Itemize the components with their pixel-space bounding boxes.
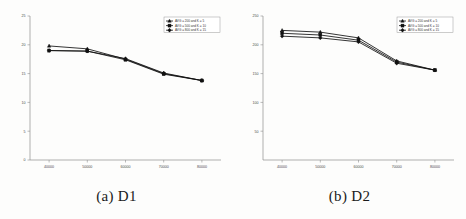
y-tick-label: 20	[22, 43, 26, 47]
series-line-2	[49, 51, 202, 81]
y-tick-label: 50	[255, 130, 259, 134]
y-tick-label: 100	[253, 101, 259, 105]
legend-label-1: AVG = 500 and K = 10	[175, 24, 206, 28]
y-tick-label: 10	[22, 101, 26, 105]
legend-label-0: AVG = 200 and K = 5	[408, 19, 437, 23]
caption-d1: (a) D1	[0, 188, 233, 205]
figure-container: 05101520254000050000600007000080000AVG =…	[0, 0, 466, 219]
chart-panel-d1: 05101520254000050000600007000080000AVG =…	[0, 0, 233, 219]
legend-label-2: AVG = 800 and K = 15	[408, 28, 439, 32]
y-tick-label: 25	[22, 14, 26, 18]
plot-area-d2: 501001502002504000050000600007000080000A…	[233, 4, 466, 190]
y-tick-label: 200	[253, 43, 259, 47]
x-tick-label: 40000	[277, 165, 287, 169]
plot-area-d1: 05101520254000050000600007000080000AVG =…	[0, 4, 233, 190]
y-tick-label: 5	[24, 130, 26, 134]
caption-d2: (b) D2	[233, 188, 466, 205]
x-tick-label: 70000	[159, 165, 169, 169]
legend-marker-1	[401, 24, 404, 27]
line-chart-d2: 501001502002504000050000600007000080000A…	[233, 4, 466, 190]
x-tick-label: 60000	[354, 165, 364, 169]
y-tick-label: 250	[253, 14, 259, 18]
x-tick-label: 80000	[197, 165, 207, 169]
y-tick-label: 150	[253, 72, 259, 76]
line-chart-d1: 05101520254000050000600007000080000AVG =…	[0, 4, 233, 190]
x-tick-label: 80000	[430, 165, 440, 169]
axis-lines	[30, 16, 221, 160]
x-tick-label: 70000	[392, 165, 402, 169]
legend-label-1: AVG = 500 and K = 10	[408, 24, 439, 28]
x-tick-label: 60000	[121, 165, 131, 169]
chart-panel-d2: 501001502002504000050000600007000080000A…	[233, 0, 466, 219]
x-tick-label: 40000	[44, 165, 54, 169]
y-tick-label: 0	[24, 158, 26, 162]
x-tick-label: 50000	[315, 165, 325, 169]
legend-marker-1	[168, 24, 171, 27]
y-tick-label: 15	[22, 72, 26, 76]
x-tick-label: 50000	[82, 165, 92, 169]
legend-label-0: AVG = 200 and K = 5	[175, 19, 204, 23]
legend-label-2: AVG = 800 and K = 15	[175, 28, 206, 32]
